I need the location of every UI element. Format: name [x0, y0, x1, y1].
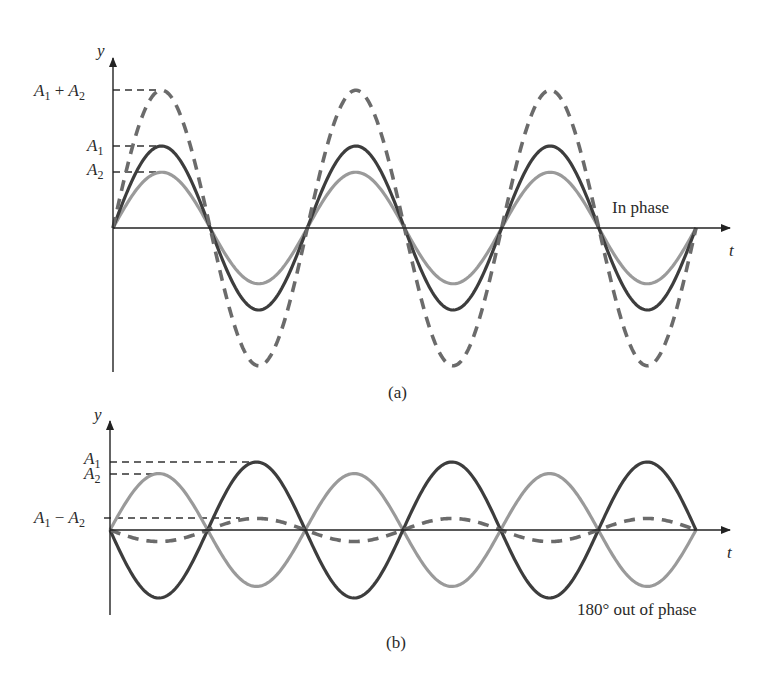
svg-text:A1: A1	[86, 136, 103, 158]
y-axis-label: y	[95, 41, 105, 60]
sum-level-label: A1 + A2	[33, 81, 85, 103]
a1-level-label: A1	[86, 136, 103, 158]
svg-text:A2: A2	[86, 160, 103, 182]
out-of-phase-annotation: 180° out of phase	[577, 600, 697, 619]
diff-level-label: A1 − A2	[33, 508, 85, 530]
wave-superposition-figure: y t A1 + A2 A1 A2 In phase (a) y t A1 A2	[0, 0, 779, 687]
t-axis-label: t	[727, 543, 733, 562]
svg-text:A1 − A2: A1 − A2	[33, 508, 85, 530]
y-axis-label: y	[92, 405, 102, 424]
svg-text:A1 + A2: A1 + A2	[33, 81, 85, 103]
panel-b-caption: (b)	[386, 633, 406, 652]
panel-a-caption: (a)	[388, 383, 407, 402]
t-axis-label: t	[729, 241, 735, 260]
panel-b: y t A1 A2 A1 − A2 180° out of phase (b)	[33, 405, 733, 652]
panel-a: y t A1 + A2 A1 A2 In phase (a)	[33, 41, 735, 402]
in-phase-annotation: In phase	[612, 198, 669, 217]
a2-level-label: A2	[86, 160, 103, 182]
